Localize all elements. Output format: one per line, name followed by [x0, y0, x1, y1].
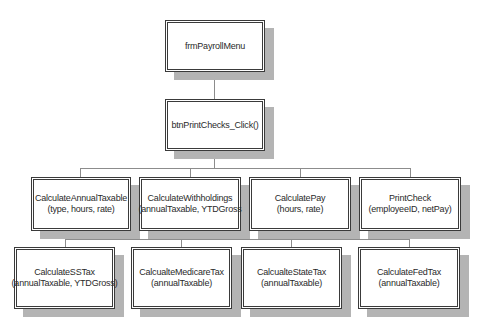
module-params: (annualTaxable, YTDGross — [138, 204, 241, 215]
module-name: frmPayrollMenu — [185, 41, 245, 52]
module-print-check: PrintCheck (employeeID, netPay) — [359, 177, 461, 231]
module-btn-print-checks-click: btnPrintChecks_Click() — [165, 99, 265, 151]
module-params: (annualTaxable) — [151, 278, 212, 289]
module-calculate-pay: CalculatePay (hours, rate) — [249, 177, 351, 231]
module-calculate-medicare-tax: CalcualteMedicareTax (annualTaxable) — [131, 247, 232, 309]
module-params: (annualTaxable) — [261, 278, 322, 289]
module-name: CalcualteStateTax — [257, 267, 326, 278]
connector-level3-bus — [80, 168, 411, 169]
module-params: (employeeID, netPay) — [368, 204, 451, 215]
module-name: CalculateSSTax — [34, 267, 95, 278]
module-name: PrintCheck — [389, 193, 431, 204]
module-name: CalculateAnnualTaxable — [35, 193, 127, 204]
module-frm-payroll-menu: frmPayrollMenu — [165, 20, 265, 72]
module-calculate-annual-taxable: CalculateAnnualTaxable (type, hours, rat… — [31, 177, 131, 231]
module-calculate-state-tax: CalcualteStateTax (annualTaxable) — [241, 247, 342, 309]
module-name: CalcualteMedicareTax — [139, 267, 224, 278]
module-calculate-fed-tax: CalculateFedTax (annualTaxable) — [358, 247, 460, 309]
module-params: (hours, rate) — [277, 204, 323, 215]
module-params: (annualTaxable) — [378, 278, 439, 289]
module-params: (type, hours, rate) — [47, 204, 114, 215]
module-name: CalculateFedTax — [377, 267, 441, 278]
module-name: CalculateWithholdings — [148, 193, 233, 204]
connector-level4-bus — [65, 239, 410, 240]
module-calculate-ss-tax: CalculateSSTax (annualTaxable, YTDGross) — [14, 247, 115, 309]
module-name: btnPrintChecks_Click() — [171, 120, 258, 131]
module-params: (annualTaxable, YTDGross) — [12, 278, 118, 289]
module-calculate-withholdings: CalculateWithholdings (annualTaxable, YT… — [139, 177, 241, 231]
module-name: CalculatePay — [275, 193, 326, 204]
